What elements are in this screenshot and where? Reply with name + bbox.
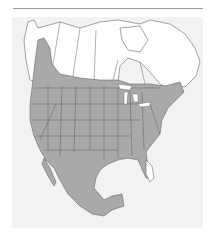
- florida-peninsula: [146, 160, 154, 182]
- range-map: [0, 0, 212, 235]
